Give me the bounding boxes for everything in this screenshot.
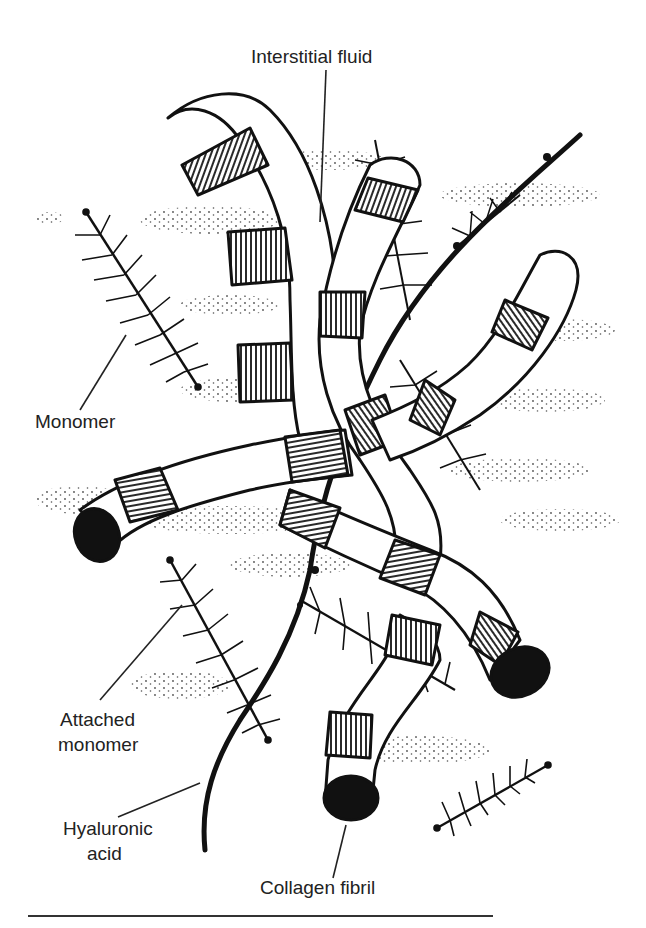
diagram-canvas: Interstitial fluid Monomer Attached mono… bbox=[0, 0, 646, 928]
label-collagen-fibril: Collagen fibril bbox=[260, 876, 375, 899]
leader-collagen-fibril bbox=[333, 825, 346, 878]
attached-monomer-lower bbox=[160, 557, 280, 743]
leader-hyaluronic-acid bbox=[118, 783, 200, 817]
extracellular-matrix-illustration bbox=[0, 0, 646, 928]
label-attached-monomer-line1: Attached bbox=[60, 708, 135, 731]
label-interstitial-fluid: Interstitial fluid bbox=[251, 45, 372, 68]
leader-monomer bbox=[80, 335, 126, 410]
free-monomer-bottom-right bbox=[434, 759, 551, 836]
collagen-fibril-6 bbox=[324, 615, 440, 820]
free-monomer bbox=[75, 209, 208, 390]
label-monomer: Monomer bbox=[35, 410, 115, 433]
leader-interstitial-fluid bbox=[320, 70, 326, 222]
caption-divider bbox=[28, 915, 493, 917]
label-hyaluronic-acid-line2: acid bbox=[87, 842, 122, 865]
label-attached-monomer-line2: monomer bbox=[58, 733, 138, 756]
label-hyaluronic-acid-line1: Hyaluronic bbox=[63, 817, 153, 840]
